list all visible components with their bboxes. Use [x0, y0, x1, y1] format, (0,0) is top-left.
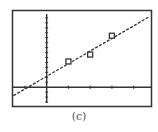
- screen-frame: [13, 11, 152, 107]
- figure-caption: (c): [0, 110, 158, 123]
- data-point-marker: [88, 52, 93, 57]
- data-point-marker: [109, 33, 114, 38]
- data-point-marker: [66, 59, 71, 64]
